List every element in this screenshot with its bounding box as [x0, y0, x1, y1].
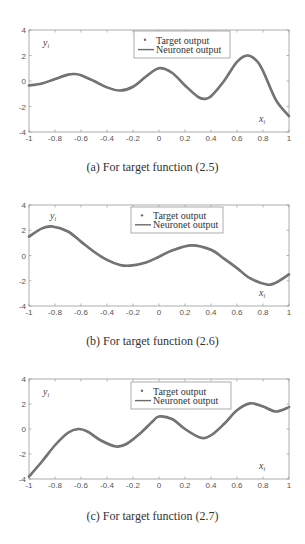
neuronet-output-curve-b [29, 226, 289, 284]
x-tick-label-b: 0 [157, 308, 162, 317]
x-axis-label-subscript: i [263, 466, 265, 472]
x-tick-label-b: 1 [287, 308, 292, 317]
figure-canvas: -1-0.8-0.6-0.4-0.200.20.40.60.81-4-2024y… [0, 0, 305, 544]
y-tick-label-a: 0 [22, 77, 27, 86]
x-tick-label-c: -0.4 [100, 481, 114, 490]
x-tick-label-a: 0.4 [205, 134, 217, 143]
x-tick-label-b: 0.4 [205, 308, 217, 317]
y-axis-label-subscript: i [47, 392, 49, 398]
neuronet-output-curve-c [29, 403, 289, 476]
x-tick-label-b: -0.8 [48, 308, 62, 317]
x-axis-label-subscript: i [263, 119, 265, 125]
x-tick-label-c: 1 [287, 481, 292, 490]
x-axis-label-subscript: i [263, 293, 265, 299]
y-tick-label-c: 0 [22, 425, 27, 434]
x-tick-label-b: -0.6 [74, 308, 88, 317]
y-tick-label-b: 0 [22, 252, 27, 261]
y-tick-label-c: -2 [19, 450, 27, 459]
y-axis-label-b: yi [49, 210, 56, 222]
legend-label-neuronet-c: Neuronet output [153, 395, 218, 406]
x-tick-label-a: 0.8 [257, 134, 269, 143]
x-tick-label-a: -0.6 [74, 134, 88, 143]
x-tick-label-c: -0.6 [74, 481, 88, 490]
y-tick-label-a: 2 [22, 52, 27, 61]
y-axis-label-subscript: i [54, 216, 56, 222]
x-tick-label-b: -0.2 [126, 308, 140, 317]
x-tick-label-a: -0.8 [48, 134, 62, 143]
neuronet-output-curve-a [29, 55, 289, 116]
x-tick-label-b: -1 [25, 308, 33, 317]
x-tick-label-b: 0.8 [257, 308, 269, 317]
target-output-dots-c [29, 403, 289, 476]
caption-c: (c) For target function (2.7) [0, 509, 305, 524]
x-tick-label-a: -0.4 [100, 134, 114, 143]
y-tick-label-b: -4 [19, 302, 27, 311]
y-axis-label-subscript: i [47, 43, 49, 49]
x-axis-label-b: xi [258, 287, 265, 299]
y-tick-label-b: 4 [22, 201, 27, 210]
x-tick-label-c: 0.2 [179, 481, 191, 490]
x-tick-label-a: 0.6 [231, 134, 243, 143]
x-axis-label-c: xi [258, 460, 265, 472]
y-tick-label-b: -2 [19, 277, 27, 286]
y-axis-label-a: yi [42, 37, 49, 49]
x-tick-label-c: 0.4 [205, 481, 217, 490]
x-tick-label-a: 1 [287, 134, 292, 143]
x-tick-label-c: 0 [157, 481, 162, 490]
y-axis-label-c: yi [42, 386, 49, 398]
x-tick-label-b: 0.6 [231, 308, 243, 317]
caption-b: (b) For target function (2.6) [0, 334, 305, 349]
legend-dot-marker-icon-a [144, 39, 146, 41]
legend-dot-marker-icon-c [141, 390, 143, 392]
x-axis-label-a: xi [258, 113, 265, 125]
x-tick-label-c: -0.8 [48, 481, 62, 490]
y-tick-label-a: 4 [22, 26, 27, 35]
x-tick-label-c: -0.2 [126, 481, 140, 490]
x-tick-label-a: -1 [25, 134, 33, 143]
x-tick-label-a: 0 [157, 134, 162, 143]
x-tick-label-c: -1 [25, 481, 33, 490]
x-tick-label-c: 0.6 [231, 481, 243, 490]
y-tick-label-c: 2 [22, 400, 27, 409]
x-tick-label-a: 0.2 [179, 134, 191, 143]
x-tick-label-a: -0.2 [126, 134, 140, 143]
x-tick-label-b: 0.2 [179, 308, 191, 317]
x-tick-label-c: 0.8 [257, 481, 269, 490]
legend-label-neuronet-a: Neuronet output [156, 44, 221, 55]
target-output-dots-a [29, 55, 289, 116]
legend-dot-marker-icon-b [141, 214, 143, 216]
y-tick-label-c: 4 [22, 375, 27, 384]
y-tick-label-a: -2 [19, 103, 27, 112]
x-tick-label-b: -0.4 [100, 308, 114, 317]
y-tick-label-b: 2 [22, 226, 27, 235]
legend-label-neuronet-b: Neuronet output [153, 219, 218, 230]
y-tick-label-c: -4 [19, 475, 27, 484]
y-tick-label-a: -4 [19, 128, 27, 137]
caption-a: (a) For target function (2.5) [0, 160, 305, 175]
